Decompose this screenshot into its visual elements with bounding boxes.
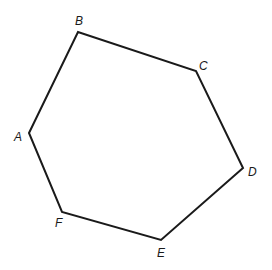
vertex-label-d: D <box>248 165 257 179</box>
vertex-label-e: E <box>157 246 166 260</box>
diagram-svg: A B C D E F <box>0 0 272 270</box>
hexagon-outline <box>29 32 243 240</box>
vertex-label-a: A <box>13 130 22 144</box>
vertex-label-c: C <box>199 59 208 73</box>
vertex-label-f: F <box>55 216 63 230</box>
hexagon-diagram: A B C D E F <box>0 0 272 270</box>
vertex-label-b: B <box>75 14 83 28</box>
